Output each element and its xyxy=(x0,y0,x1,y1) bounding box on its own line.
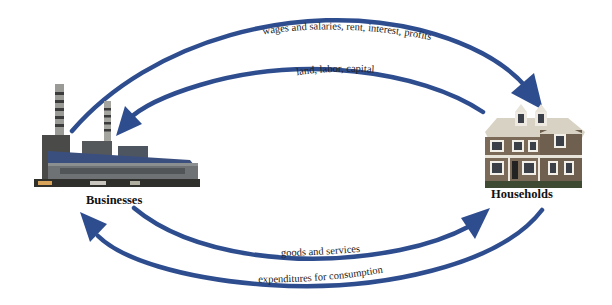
arrowhead-icon xyxy=(80,212,107,242)
flow-label-wages: wages and salaries, rent, interest, prof… xyxy=(262,20,433,42)
circular-flow-diagram: wages and salaries, rent, interest, prof… xyxy=(0,0,612,305)
households-label: Households xyxy=(491,187,553,202)
flow-arrow-resources xyxy=(116,69,483,136)
businesses-label: Businesses xyxy=(86,193,142,208)
flow-label-resources: land, labor, capital xyxy=(295,63,374,77)
arrowhead-icon xyxy=(461,208,490,239)
house-icon xyxy=(485,104,585,188)
